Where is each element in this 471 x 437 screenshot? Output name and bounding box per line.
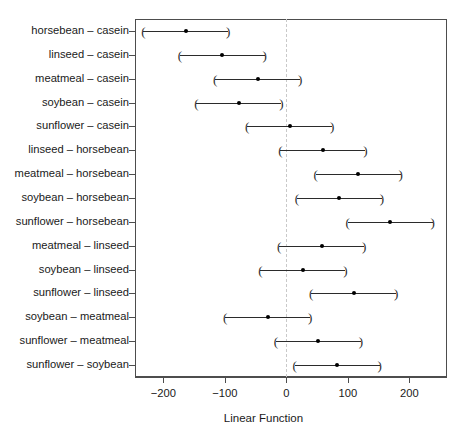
x-axis-tick xyxy=(286,377,287,383)
confidence-interval-row: () xyxy=(0,20,471,42)
confidence-interval-row: () xyxy=(0,187,471,209)
estimate-point xyxy=(388,220,392,224)
interval-lower-cap: ( xyxy=(223,311,227,324)
interval-upper-cap: ) xyxy=(363,144,367,157)
interval-upper-cap: ) xyxy=(359,335,363,348)
interval-upper-cap: ) xyxy=(378,359,382,372)
confidence-interval-row: () xyxy=(0,259,471,281)
confidence-interval-row: () xyxy=(0,163,471,185)
confidence-interval-row: () xyxy=(0,68,471,90)
estimate-point xyxy=(288,124,292,128)
estimate-point xyxy=(335,363,339,367)
interval-lower-cap: ( xyxy=(258,263,262,276)
x-axis-tick-label: 100 xyxy=(339,387,358,399)
x-axis-tick xyxy=(348,377,349,383)
confidence-interval-row: () xyxy=(0,354,471,376)
interval-upper-cap: ) xyxy=(398,168,402,181)
interval-lower-cap: ( xyxy=(194,96,198,109)
confidence-interval-row: () xyxy=(0,235,471,257)
estimate-point xyxy=(316,339,320,343)
interval-lower-cap: ( xyxy=(245,120,249,133)
estimate-point xyxy=(184,29,188,33)
x-axis-tick-label: 0 xyxy=(283,387,289,399)
confidence-interval-row: () xyxy=(0,44,471,66)
interval-upper-cap: ) xyxy=(226,24,230,37)
confidence-interval-row: () xyxy=(0,92,471,114)
estimate-point xyxy=(320,244,324,248)
estimate-point xyxy=(220,53,224,57)
interval-upper-cap: ) xyxy=(380,192,384,205)
interval-lower-cap: ( xyxy=(278,144,282,157)
interval-upper-cap: ) xyxy=(330,120,334,133)
interval-lower-cap: ( xyxy=(178,48,182,61)
estimate-point xyxy=(352,291,356,295)
interval-upper-cap: ) xyxy=(308,311,312,324)
confidence-interval-row: () xyxy=(0,211,471,233)
confidence-interval-row: () xyxy=(0,330,471,352)
interval-upper-cap: ) xyxy=(394,287,398,300)
estimate-point xyxy=(256,77,260,81)
x-axis-tick-label: −100 xyxy=(212,387,237,399)
interval-lower-cap: ( xyxy=(309,287,313,300)
x-axis-tick xyxy=(163,377,164,383)
estimate-point xyxy=(237,101,241,105)
interval-upper-cap: ) xyxy=(263,48,267,61)
estimate-point xyxy=(266,315,270,319)
confidence-interval-row: () xyxy=(0,282,471,304)
interval-lower-cap: ( xyxy=(213,72,217,85)
x-axis-title-text: Linear Function xyxy=(224,412,303,424)
interval-upper-cap: ) xyxy=(362,239,366,252)
interval-lower-cap: ( xyxy=(277,239,281,252)
confidence-interval-row: () xyxy=(0,306,471,328)
interval-upper-cap: ) xyxy=(343,263,347,276)
estimate-point xyxy=(337,196,341,200)
confidence-interval-plot: horsebean – caseinlinseed – caseinmeatme… xyxy=(0,0,471,437)
interval-upper-cap: ) xyxy=(430,215,434,228)
x-axis-tick xyxy=(225,377,226,383)
interval-lower-cap: ( xyxy=(346,215,350,228)
interval-upper-cap: ) xyxy=(279,96,283,109)
estimate-point xyxy=(356,172,360,176)
x-axis-tick-label: −200 xyxy=(151,387,176,399)
interval-lower-cap: ( xyxy=(274,335,278,348)
interval-lower-cap: ( xyxy=(141,24,145,37)
interval-upper-cap: ) xyxy=(298,72,302,85)
x-axis-tick-label: 200 xyxy=(400,387,419,399)
confidence-interval-row: () xyxy=(0,139,471,161)
confidence-interval-row: () xyxy=(0,115,471,137)
x-axis-tick xyxy=(409,377,410,383)
estimate-point xyxy=(301,268,305,272)
interval-lower-cap: ( xyxy=(295,192,299,205)
x-axis-line xyxy=(135,377,447,378)
x-axis-title: Linear Function xyxy=(0,412,471,424)
interval-lower-cap: ( xyxy=(293,359,297,372)
estimate-point xyxy=(321,148,325,152)
interval-lower-cap: ( xyxy=(314,168,318,181)
